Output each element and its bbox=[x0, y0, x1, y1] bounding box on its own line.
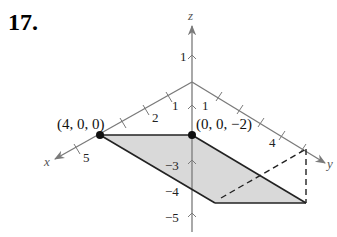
z-axis-label: z bbox=[187, 8, 193, 23]
point-0-0-neg2 bbox=[188, 131, 196, 139]
point-label-0-0-neg2: (0, 0, −2) bbox=[196, 116, 252, 133]
z-tick-neg1: 1 bbox=[172, 98, 179, 113]
x-tick-5: 5 bbox=[83, 150, 90, 165]
z-tick-neg3: −3 bbox=[165, 158, 179, 173]
x-tick-2: 2 bbox=[152, 110, 159, 125]
point-4-0-0 bbox=[96, 131, 104, 139]
z-tick-neg4: −4 bbox=[165, 184, 179, 199]
y-axis-label: y bbox=[325, 156, 333, 171]
x-axis-label: x bbox=[43, 154, 50, 169]
z-tick-neg5: −5 bbox=[165, 210, 179, 225]
point-label-4-0-0: (4, 0, 0) bbox=[57, 116, 105, 133]
diagram-3d-plane: 17. (4, 0, 0) bbox=[0, 0, 337, 237]
y-tick-1: 1 bbox=[202, 98, 209, 113]
y-tick-4: 4 bbox=[269, 135, 276, 150]
z-tick-1: 1 bbox=[180, 49, 187, 64]
problem-number: 17. bbox=[8, 9, 38, 35]
